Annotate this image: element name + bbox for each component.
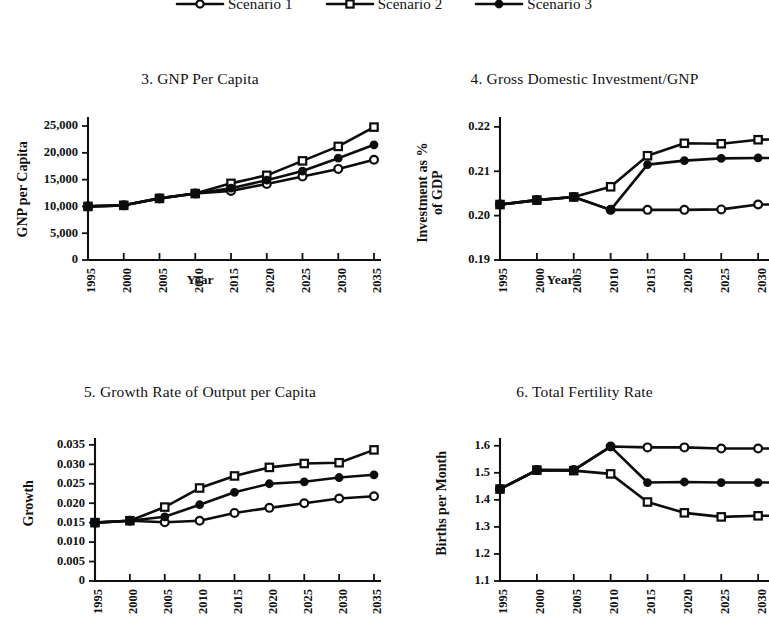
chart-title-3: 3. GNP Per Capita	[0, 70, 400, 88]
data-point-marker	[370, 123, 377, 130]
data-point-marker	[644, 161, 651, 168]
y-tick-label: 0.020	[57, 496, 85, 510]
x-tick-label: 2020	[266, 589, 280, 614]
data-point-marker	[680, 443, 688, 451]
legend-label-scenario-1: Scenario 1	[228, 0, 293, 13]
data-point-marker	[192, 190, 199, 197]
data-point-marker	[335, 143, 342, 150]
y-tick-label: 0.20	[468, 208, 490, 222]
x-tick-label: 2025	[718, 589, 732, 614]
data-point-marker	[371, 141, 378, 148]
y-tick-label: 1.3	[474, 519, 490, 533]
legend-entry-scenario-2: Scenario 2	[327, 0, 443, 13]
data-point-marker	[754, 136, 761, 143]
data-point-marker	[301, 460, 308, 467]
y-tick-label: 15,000	[44, 172, 78, 186]
y-tick-label: 25,000	[44, 118, 78, 132]
y-tick-label: 0	[79, 573, 85, 587]
chart-title-5: 5. Growth Rate of Output per Capita	[0, 383, 400, 401]
data-point-marker	[754, 445, 762, 453]
data-point-marker	[607, 207, 614, 214]
data-point-marker	[718, 140, 725, 147]
data-point-marker	[370, 446, 377, 453]
data-point-marker	[370, 492, 378, 500]
data-point-marker	[299, 168, 306, 175]
data-point-marker	[161, 503, 168, 510]
data-point-marker	[754, 512, 761, 519]
x-tick-label: 2000	[126, 589, 140, 614]
data-point-marker	[570, 194, 577, 201]
data-point-marker	[717, 445, 725, 453]
legend-label-scenario-2: Scenario 2	[378, 0, 443, 13]
y-tick-label: 0	[72, 252, 78, 266]
data-point-marker	[301, 478, 308, 485]
data-point-marker	[370, 156, 378, 164]
scenario-legend: Scenario 1 Scenario 2 Scenario 3	[0, 0, 769, 17]
data-point-marker	[607, 443, 614, 450]
y-tick-label: 1.4	[474, 492, 490, 506]
x-tick-label: 2025	[301, 589, 315, 614]
x-tick-label: 2035	[370, 589, 384, 614]
x-axis-label-4: Year	[400, 272, 720, 288]
data-point-marker	[681, 157, 688, 164]
y-tick-label: 1.1	[474, 573, 490, 587]
y-axis-label-6: Births per Month	[435, 441, 450, 566]
x-tick-label: 1995	[91, 589, 105, 614]
data-point-marker	[371, 471, 378, 478]
x-tick-label: 2015	[231, 589, 245, 614]
y-axis-label-3: GNP per Capita	[16, 129, 31, 249]
data-point-marker	[335, 155, 342, 162]
data-point-marker	[570, 467, 577, 474]
data-point-marker	[497, 486, 504, 493]
chart-panel-gnp-per-capita: 3. GNP Per Capita GNP per Capita 05,0001…	[0, 70, 400, 310]
y-axis-label-5: Growth	[22, 458, 37, 548]
y-tick-label: 0.010	[57, 534, 85, 548]
y-axis-label-4: Investment as %of GDP	[416, 134, 445, 252]
plot-area-6: 1.11.21.31.41.51.61995200020052010201520…	[400, 431, 769, 631]
filled-dot-marker-icon	[476, 0, 522, 11]
y-tick-label: 20,000	[44, 145, 78, 159]
y-tick-label: 1.5	[474, 465, 490, 479]
chart-title-4: 4. Gross Domestic Investment/GNP	[400, 70, 769, 88]
y-tick-label: 10,000	[44, 199, 78, 213]
data-point-marker	[156, 195, 163, 202]
data-point-marker	[334, 165, 342, 173]
y-tick-label: 0.22	[468, 119, 490, 133]
data-point-marker	[718, 479, 725, 486]
data-point-marker	[681, 509, 688, 516]
x-tick-label: 2000	[533, 589, 547, 614]
data-point-marker	[755, 479, 762, 486]
data-point-marker	[644, 152, 651, 159]
data-point-marker	[127, 517, 134, 524]
y-tick-label: 0.035	[57, 437, 85, 451]
data-point-marker	[300, 499, 308, 507]
chart-panel-growth-rate-output: 5. Growth Rate of Output per Capita Grow…	[0, 383, 400, 631]
data-point-marker	[718, 513, 725, 520]
open-square-marker-icon	[327, 0, 373, 11]
data-point-marker	[161, 514, 168, 521]
data-point-marker	[231, 509, 239, 517]
data-point-marker	[196, 484, 203, 491]
open-circle-marker-icon	[177, 0, 223, 11]
data-point-marker	[196, 517, 204, 525]
x-tick-label: 2030	[336, 589, 350, 614]
data-point-marker	[607, 470, 614, 477]
data-point-marker	[228, 185, 235, 192]
chart-panel-total-fertility-rate: 6. Total Fertility Rate Births per Month…	[400, 383, 769, 631]
data-point-marker	[120, 202, 127, 209]
data-point-marker	[644, 206, 652, 214]
legend-label-scenario-3: Scenario 3	[527, 0, 592, 13]
x-tick-label: 1995	[496, 589, 510, 614]
data-point-marker	[299, 157, 306, 164]
x-tick-label: 2015	[644, 589, 658, 614]
x-tick-label: 2010	[607, 589, 621, 614]
data-point-marker	[717, 206, 725, 214]
y-tick-label: 0.025	[57, 476, 85, 490]
x-tick-label: 2020	[681, 589, 695, 614]
y-tick-label: 1.2	[474, 546, 490, 560]
data-point-marker	[644, 498, 651, 505]
data-point-marker	[644, 479, 651, 486]
y-tick-label: 5,000	[50, 226, 78, 240]
data-point-marker	[754, 201, 762, 209]
chart-panel-gross-domestic-investment: 4. Gross Domestic Investment/GNP Investm…	[400, 70, 769, 310]
